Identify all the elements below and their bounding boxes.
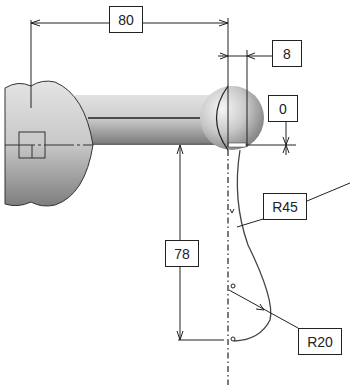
dimension-8-label: 8 bbox=[272, 40, 302, 67]
r20-leader bbox=[229, 290, 298, 328]
dimension-80-label: 80 bbox=[109, 6, 143, 33]
dimension-0-label: 0 bbox=[268, 95, 298, 122]
radius-r20-label: R20 bbox=[298, 328, 342, 355]
ball-end bbox=[200, 86, 264, 150]
shaft bbox=[75, 95, 215, 145]
center-markers bbox=[230, 209, 235, 341]
profile-curve bbox=[234, 150, 271, 341]
radius-r45-label: R45 bbox=[263, 193, 307, 220]
dimension-78-label: 78 bbox=[165, 240, 199, 267]
